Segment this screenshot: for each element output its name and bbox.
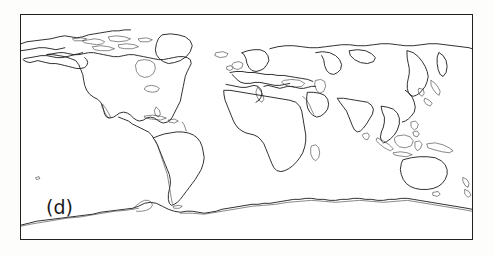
coastline-tasmania [433,191,440,196]
coastline-sri-lanka [362,133,369,140]
coastline-southeast-asia [380,106,399,143]
coastline-greenland [155,34,192,64]
coastline-scandinavia [242,50,269,72]
coastline-africa [224,90,306,171]
coastline-new-guinea [427,143,453,153]
coastline-china-coast [402,90,415,122]
coastline-arctic-islands-6 [138,38,152,42]
coastline-philippines [411,121,419,137]
coastline-australia [400,157,447,190]
coastline-java [393,152,412,157]
coastline-great-lakes [144,85,159,92]
coastline-caspian-sea [315,79,326,93]
coastline-tierra-del-fuego [173,205,182,208]
coastline-lesser-antilles [182,122,186,131]
coastline-india [338,98,374,132]
coastline-arabian-peninsula [307,92,329,117]
coastline-black-sea [282,79,305,87]
world-coastline-map [21,15,472,239]
coastline-arctic-islands-1 [83,39,105,45]
coastline-kamchatka [437,53,447,77]
coastline-arctic-islands-4 [119,44,139,49]
coastline-hudson-bay [135,60,155,78]
coastline-arctic-islands-3 [93,46,115,51]
coastline-europe-mainland [230,71,313,85]
coastline-british-isles [227,62,243,71]
coastline-hispaniola [168,119,178,123]
figure-panel: (d) [0,0,494,256]
coastline-asia-north [270,44,472,49]
coastline-new-zealand [463,178,471,198]
coastline-sumatra [376,138,393,151]
coastline-korea [418,88,424,96]
map-frame: (d) [20,14,473,240]
coastline-red-sea [303,96,314,114]
panel-label: (d) [46,198,73,217]
coastline-antarctica-inner [21,200,472,226]
coastline-japan [424,80,440,106]
coastline-asia-east [407,51,428,97]
coastline-antarctica [21,198,472,225]
coastline-island-speck [36,177,40,180]
coastline-andes-line [154,140,172,203]
coastline-borneo [394,135,413,148]
coastline-asia-siberia-coast [316,50,376,75]
coastline-iceland [215,52,228,58]
coastline-south-america [153,132,204,205]
coastline-sulawesi [415,141,422,151]
coastline-madagascar [311,145,320,161]
coastline-mediterranean-north [226,84,316,102]
coastline-arctic-islands-2 [109,36,131,42]
coastline-antarctic-peninsula [133,200,153,211]
